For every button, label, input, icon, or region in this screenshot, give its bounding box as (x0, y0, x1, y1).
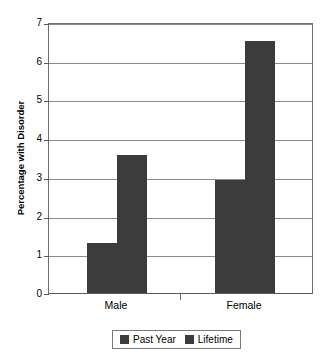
x-label-female: Female (199, 299, 289, 311)
gridline-7 (49, 24, 312, 25)
x-axis-category-labels: Male Female (48, 299, 313, 319)
bar-female-past-year (215, 180, 245, 293)
y-tick-label-7: 7 (2, 18, 42, 28)
legend-item-lifetime: Lifetime (185, 334, 233, 345)
chart-legend: Past Year Lifetime (112, 330, 241, 349)
legend-label-past-year: Past Year (133, 334, 176, 345)
y-tick-label-2: 2 (2, 212, 42, 222)
y-tick-label-5: 5 (2, 95, 42, 105)
legend-swatch-icon-past-year (120, 335, 129, 344)
y-tick-mark-6 (44, 63, 49, 64)
y-tick-mark-0 (44, 294, 49, 295)
y-tick-mark-5 (44, 101, 49, 102)
y-tick-label-6: 6 (2, 57, 42, 67)
plot-area (48, 23, 313, 294)
y-tick-mark-2 (44, 218, 49, 219)
y-tick-label-1: 1 (2, 250, 42, 260)
legend-label-lifetime: Lifetime (198, 334, 233, 345)
y-tick-label-0: 0 (2, 289, 42, 299)
bar-male-lifetime (117, 155, 147, 293)
y-tick-mark-3 (44, 179, 49, 180)
y-axis-tick-labels: 7 6 5 4 3 2 1 0 (0, 23, 42, 294)
y-tick-mark-7 (44, 24, 49, 25)
bar-male-past-year (87, 243, 117, 293)
y-tick-mark-4 (44, 140, 49, 141)
x-label-male: Male (71, 299, 161, 311)
bar-chart: Percentage with Disorder 7 6 5 4 3 2 1 0 (0, 0, 333, 356)
y-tick-label-4: 4 (2, 134, 42, 144)
y-tick-label-3: 3 (2, 173, 42, 183)
y-tick-mark-1 (44, 256, 49, 257)
legend-swatch-icon-lifetime (185, 335, 194, 344)
legend-item-past-year: Past Year (120, 334, 176, 345)
bar-female-lifetime (245, 41, 275, 293)
